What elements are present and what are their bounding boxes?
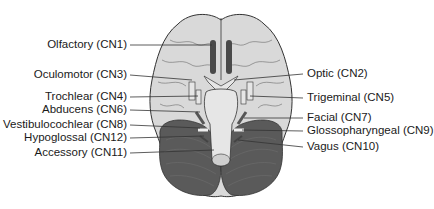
label-facial: Facial (CN7) [307, 111, 372, 124]
label-trochlear: Trochlear (CN4) [45, 90, 127, 103]
label-optic: Optic (CN2) [307, 67, 368, 80]
label-abducens: Abducens (CN6) [42, 103, 127, 116]
label-trigeminal: Trigeminal (CN5) [307, 91, 394, 104]
label-olfactory: Olfactory (CN1) [47, 38, 127, 51]
label-oculomotor: Oculomotor (CN3) [34, 68, 127, 81]
label-accessory: Accessory (CN11) [35, 146, 127, 159]
label-vestibulocochlear: Vestibulocochlear (CN8) [3, 118, 127, 131]
label-hypoglossal: Hypoglossal (CN12) [24, 131, 127, 144]
label-glossopharyngeal: Glossopharyngeal (CN9) [307, 124, 434, 137]
label-vagus: Vagus (CN10) [307, 140, 379, 153]
